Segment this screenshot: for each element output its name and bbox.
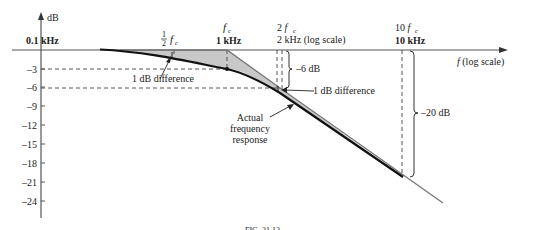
brace-6db	[286, 51, 292, 88]
svg-text:1 kHz: 1 kHz	[216, 35, 242, 46]
x-axis-arrow-icon	[499, 47, 508, 53]
svg-text:1: 1	[162, 30, 166, 39]
brace-20db	[410, 51, 418, 177]
svg-text:10 f: 10 f	[395, 22, 412, 33]
svg-text:–15: –15	[21, 139, 37, 150]
bode-plot: dB f (log scale) –3 –6 –9 –12 –15 –18 –2…	[0, 0, 533, 230]
x-label-fc: f c 1 kHz	[216, 21, 242, 46]
x-axis-label: f (log scale)	[457, 56, 504, 68]
svg-text:–21: –21	[21, 177, 37, 188]
svg-text:frequency: frequency	[230, 123, 270, 134]
svg-text:–3: –3	[26, 64, 37, 75]
svg-text:Actual: Actual	[237, 112, 264, 123]
x-label-half-fc: 1 2 f c	[161, 30, 179, 48]
annotation-minus-20db: –20 dB	[420, 107, 451, 118]
annotation-minus-6db: –6 dB	[295, 63, 321, 74]
y-axis-arrow-icon	[38, 12, 44, 20]
svg-text:2 kHz (log scale): 2 kHz (log scale)	[277, 34, 346, 46]
fc-point	[225, 67, 229, 71]
svg-text:c: c	[228, 27, 232, 35]
svg-text:c: c	[175, 39, 179, 47]
svg-text:2: 2	[162, 39, 166, 48]
svg-text:–18: –18	[21, 158, 37, 169]
x-label-10fc: 10 f c 10 kHz	[395, 22, 426, 46]
y-axis-label: dB	[47, 12, 59, 23]
x-label-0.1khz: 0.1 kHz	[26, 35, 59, 46]
svg-text:10 kHz: 10 kHz	[395, 35, 426, 46]
svg-text:c: c	[415, 27, 419, 35]
svg-text:–6: –6	[26, 82, 37, 93]
annotation-1db-difference-fc: 1 dB difference	[132, 73, 195, 84]
y-tick-labels: –3 –6 –9 –12 –15 –18 –21 –24	[21, 64, 37, 207]
svg-text:response: response	[233, 134, 269, 145]
svg-text:–24: –24	[21, 196, 37, 207]
figure-caption: FIG. 21.12	[245, 226, 280, 230]
annotation-actual-response: Actual frequency response	[230, 112, 270, 145]
svg-text:–12: –12	[21, 120, 37, 131]
x-label-2fc: 2 f c 2 kHz (log scale)	[277, 22, 346, 46]
annotation-1db-difference-2fc: 1 dB difference	[313, 85, 376, 96]
svg-text:–9: –9	[26, 101, 37, 112]
svg-text:2 f: 2 f	[277, 22, 289, 33]
